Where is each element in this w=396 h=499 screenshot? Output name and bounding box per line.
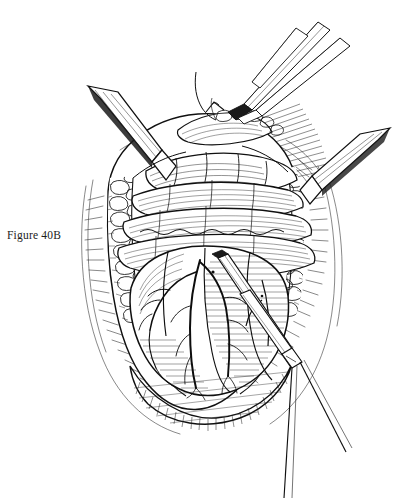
figure-illustration: [0, 0, 396, 499]
surgical-illustration-canvas: [0, 0, 396, 499]
figure-caption: Figure 40B: [7, 229, 61, 241]
